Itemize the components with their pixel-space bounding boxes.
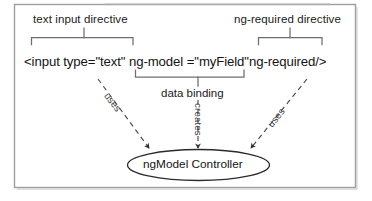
label-ng-required-directive: ng-required directive (234, 14, 341, 26)
label-text-input-directive: text input directive (33, 14, 128, 26)
code-line: <input type="text" ng-model ="myField"ng… (24, 55, 326, 68)
diagram-figure: text input directive ng-required directi… (0, 0, 372, 201)
ngmodel-controller-label: ngModel Controller (143, 159, 243, 171)
edge-label-creates: creates (193, 103, 203, 136)
label-data-binding: data binding (161, 88, 224, 100)
